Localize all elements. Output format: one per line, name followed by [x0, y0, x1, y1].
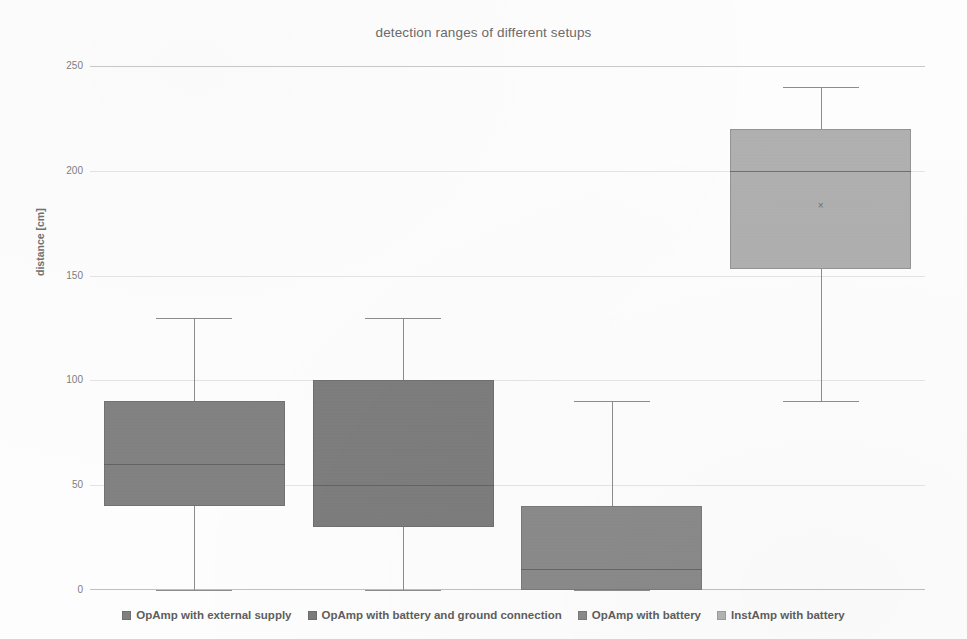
y-axis-tick-label: 50	[43, 479, 83, 490]
legend-label: InstAmp with battery	[731, 609, 845, 621]
legend-label: OpAmp with external supply	[136, 609, 291, 621]
box-rect[interactable]	[730, 129, 911, 269]
median-line	[313, 485, 494, 486]
box-rect[interactable]	[313, 380, 494, 527]
whisker-lower	[403, 527, 404, 590]
legend-label: OpAmp with battery	[592, 609, 701, 621]
whisker-lower	[821, 269, 822, 401]
whisker-cap-upper	[365, 318, 441, 319]
legend-item[interactable]: OpAmp with battery	[578, 609, 701, 621]
whisker-upper	[194, 318, 195, 402]
y-axis-tick-label: 200	[43, 165, 83, 176]
y-axis-tick-label: 0	[43, 584, 83, 595]
box-rect[interactable]	[104, 401, 285, 506]
plot-border-top	[90, 66, 925, 67]
chart-page: detection ranges of different setups dis…	[0, 0, 967, 639]
whisker-cap-upper	[574, 401, 650, 402]
whisker-cap-lower	[365, 590, 441, 591]
whisker-lower	[194, 506, 195, 590]
legend-item[interactable]: InstAmp with battery	[717, 609, 845, 621]
plot-area: ×	[90, 66, 925, 590]
legend-label: OpAmp with battery and ground connection	[322, 609, 562, 621]
whisker-cap-upper	[783, 87, 859, 88]
median-line	[521, 569, 702, 570]
gridline	[90, 276, 925, 277]
legend-swatch-icon	[717, 611, 726, 620]
whisker-upper	[821, 87, 822, 129]
mean-marker-icon: ×	[818, 201, 824, 211]
whisker-cap-lower	[574, 590, 650, 591]
chart-legend: OpAmp with external supplyOpAmp with bat…	[0, 609, 967, 621]
whisker-cap-lower	[783, 401, 859, 402]
whisker-upper	[612, 401, 613, 506]
legend-swatch-icon	[122, 611, 131, 620]
legend-swatch-icon	[308, 611, 317, 620]
median-line	[104, 464, 285, 465]
box-rect[interactable]	[521, 506, 702, 590]
whisker-cap-upper	[156, 318, 232, 319]
legend-item[interactable]: OpAmp with external supply	[122, 609, 291, 621]
y-axis-tick-label: 250	[43, 60, 83, 71]
whisker-upper	[403, 318, 404, 381]
gridline	[90, 380, 925, 381]
median-line	[730, 171, 911, 172]
legend-item[interactable]: OpAmp with battery and ground connection	[308, 609, 562, 621]
legend-swatch-icon	[578, 611, 587, 620]
y-axis-tick-label: 150	[43, 270, 83, 281]
whisker-cap-lower	[156, 590, 232, 591]
y-axis-tick-label: 100	[43, 374, 83, 385]
chart-title: detection ranges of different setups	[0, 25, 967, 40]
